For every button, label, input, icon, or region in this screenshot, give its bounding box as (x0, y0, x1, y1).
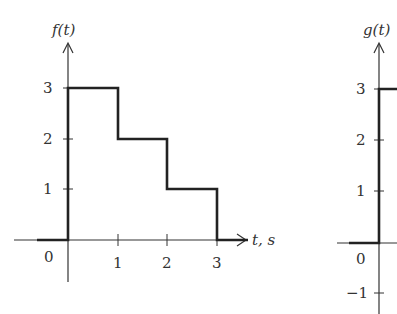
f-y-tick-label-1: 1 (43, 180, 53, 198)
g-plot: g(t) 0 1 2 3 −1 (337, 21, 397, 314)
g-y-tick-label-3: 3 (356, 80, 366, 98)
f-x-tick-label-2: 2 (162, 254, 172, 272)
f-plot: f(t) t, s 0 1 2 3 1 2 3 (14, 21, 276, 282)
g-origin-label: 0 (356, 250, 366, 268)
g-y-tick-label-1: 1 (356, 182, 366, 200)
g-axis-label: g(t) (363, 21, 390, 39)
figure: f(t) t, s 0 1 2 3 1 2 3 g(t) 0 1 2 3 −1 (0, 0, 397, 314)
f-y-tick-label-3: 3 (43, 79, 53, 97)
g-y-tick-label-minus1: −1 (346, 284, 368, 302)
g-step-curve (349, 89, 397, 243)
f-x-tick-label-3: 3 (212, 254, 222, 272)
t-axis-label: t, s (252, 231, 276, 249)
f-step-curve (37, 88, 248, 240)
f-axis-label: f(t) (51, 21, 75, 39)
f-x-tick-label-1: 1 (113, 254, 123, 272)
f-y-tick-label-2: 2 (43, 130, 53, 148)
g-y-tick-label-2: 2 (356, 131, 366, 149)
f-origin-label: 0 (44, 248, 54, 266)
